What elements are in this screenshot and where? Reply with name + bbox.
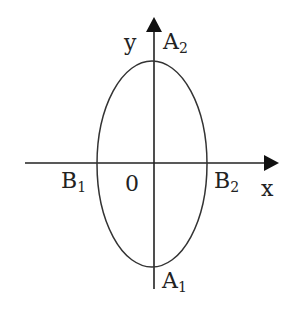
point-b2-base: B (214, 168, 230, 193)
point-b1-base: B (61, 168, 77, 193)
point-b2-subscript: 2 (230, 179, 239, 195)
x-axis-label: x (261, 178, 273, 200)
point-a2-base: A (163, 29, 179, 54)
point-a1-subscript: 1 (178, 279, 187, 295)
point-label-a1: A1 (162, 270, 187, 294)
point-a2-subscript: 2 (179, 40, 188, 56)
y-axis-arrow-icon (146, 17, 162, 32)
origin-label: 0 (125, 173, 139, 195)
point-label-b1: B1 (61, 170, 86, 194)
point-a1-base: A (162, 268, 178, 293)
point-label-a2: A2 (163, 31, 188, 55)
x-axis-arrow-icon (264, 155, 279, 171)
y-axis-label: y (124, 32, 136, 54)
point-b1-subscript: 1 (77, 179, 86, 195)
point-label-b2: B2 (214, 170, 239, 194)
ellipse-diagram: y A2 B1 0 B2 x A1 (0, 0, 299, 313)
ellipse-curve (97, 61, 207, 267)
diagram-graphics (0, 0, 299, 313)
